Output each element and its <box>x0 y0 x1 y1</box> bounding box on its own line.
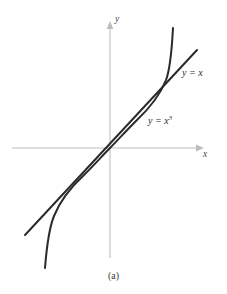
figure-caption: (a) <box>0 271 227 281</box>
curve-label-y-equals-x: y = x <box>182 68 203 78</box>
y-axis-label: y <box>115 15 119 25</box>
curve-label-y-equals-x-cubed-base: y = x <box>148 115 169 126</box>
x-axis-label: x <box>203 150 207 160</box>
curve-y-equals-x <box>25 50 197 235</box>
y-axis-arrowhead <box>107 21 114 29</box>
figure-panel: y x y = x y = x3 (a) <box>0 0 227 294</box>
curve-label-y-equals-x-cubed: y = x3 <box>148 116 172 126</box>
curve-label-exponent: 3 <box>169 114 172 121</box>
plot-area <box>0 0 227 294</box>
